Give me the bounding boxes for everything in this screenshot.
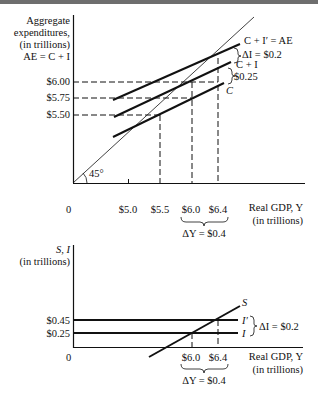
gap-label: $0.25 <box>234 71 258 82</box>
upper-delta-y-brace <box>181 217 228 226</box>
lower-delta-y-brace <box>181 364 228 373</box>
lower-xtick-6-0: $6.0 <box>182 352 200 363</box>
label-s: S <box>242 297 248 308</box>
lower-delta-i-label: ΔI = $0.2 <box>259 321 299 332</box>
label-c-plus-i: C + I <box>236 59 258 70</box>
upper-ylabel-line4: AE = C + I <box>23 51 70 62</box>
lower-xlabel-line1: Real GDP, Y <box>249 351 304 362</box>
lower-ytick-045: $0.45 <box>46 315 70 326</box>
upper-ylabel-line3: (in trillions) <box>20 39 71 51</box>
lower-xlabel-line2: (in trillions) <box>253 364 304 376</box>
upper-xlabel-line2: (in trillions) <box>253 215 304 227</box>
lower-ylabel-line2: (in trillions) <box>20 256 71 268</box>
angle-arc <box>83 173 87 183</box>
lower-xtick-6-4: $6.4 <box>209 352 228 363</box>
upper-xtick-5-5: $5.5 <box>151 204 169 215</box>
upper-ytick-550: $5.50 <box>46 109 70 120</box>
label-i: I <box>241 328 246 339</box>
lower-origin: 0 <box>66 352 71 363</box>
upper-chart: Aggregate expenditures, (in trillions) A… <box>14 15 305 239</box>
upper-45-degree-line <box>73 17 254 183</box>
lower-delta-y-label: ΔY = $0.4 <box>182 375 226 386</box>
label-c: C <box>226 85 234 96</box>
upper-xtick-6-4: $6.4 <box>209 204 228 215</box>
upper-xtick-5-0: $5.0 <box>119 204 137 215</box>
label-c-plus-i-prime: C + I′ = AE <box>244 35 293 46</box>
lower-delta-i-brace <box>250 316 257 336</box>
lower-ylabel-line1: S, I <box>56 244 71 255</box>
upper-delta-y-label: ΔY = $0.4 <box>182 228 226 239</box>
upper-ylabel-line2: expenditures, <box>14 27 70 38</box>
lower-ytick-025: $0.25 <box>46 328 70 339</box>
upper-xtick-6-0: $6.0 <box>182 204 200 215</box>
label-i-prime: I′ <box>241 315 248 326</box>
upper-origin: 0 <box>66 204 71 215</box>
upper-ytick-600: $6.00 <box>46 76 70 87</box>
chart-canvas: Aggregate expenditures, (in trillions) A… <box>0 0 318 399</box>
upper-ylabel-line1: Aggregate <box>26 15 70 26</box>
line-c-plus-i-prime <box>113 44 240 100</box>
line-s <box>149 306 240 357</box>
upper-ytick-575: $5.75 <box>46 92 70 103</box>
upper-xlabel-line1: Real GDP, Y <box>249 202 304 213</box>
lower-chart: S, I (in trillions) $0.45 $0.25 S I′ I Δ… <box>20 244 304 386</box>
angle-label: 45° <box>89 168 104 179</box>
